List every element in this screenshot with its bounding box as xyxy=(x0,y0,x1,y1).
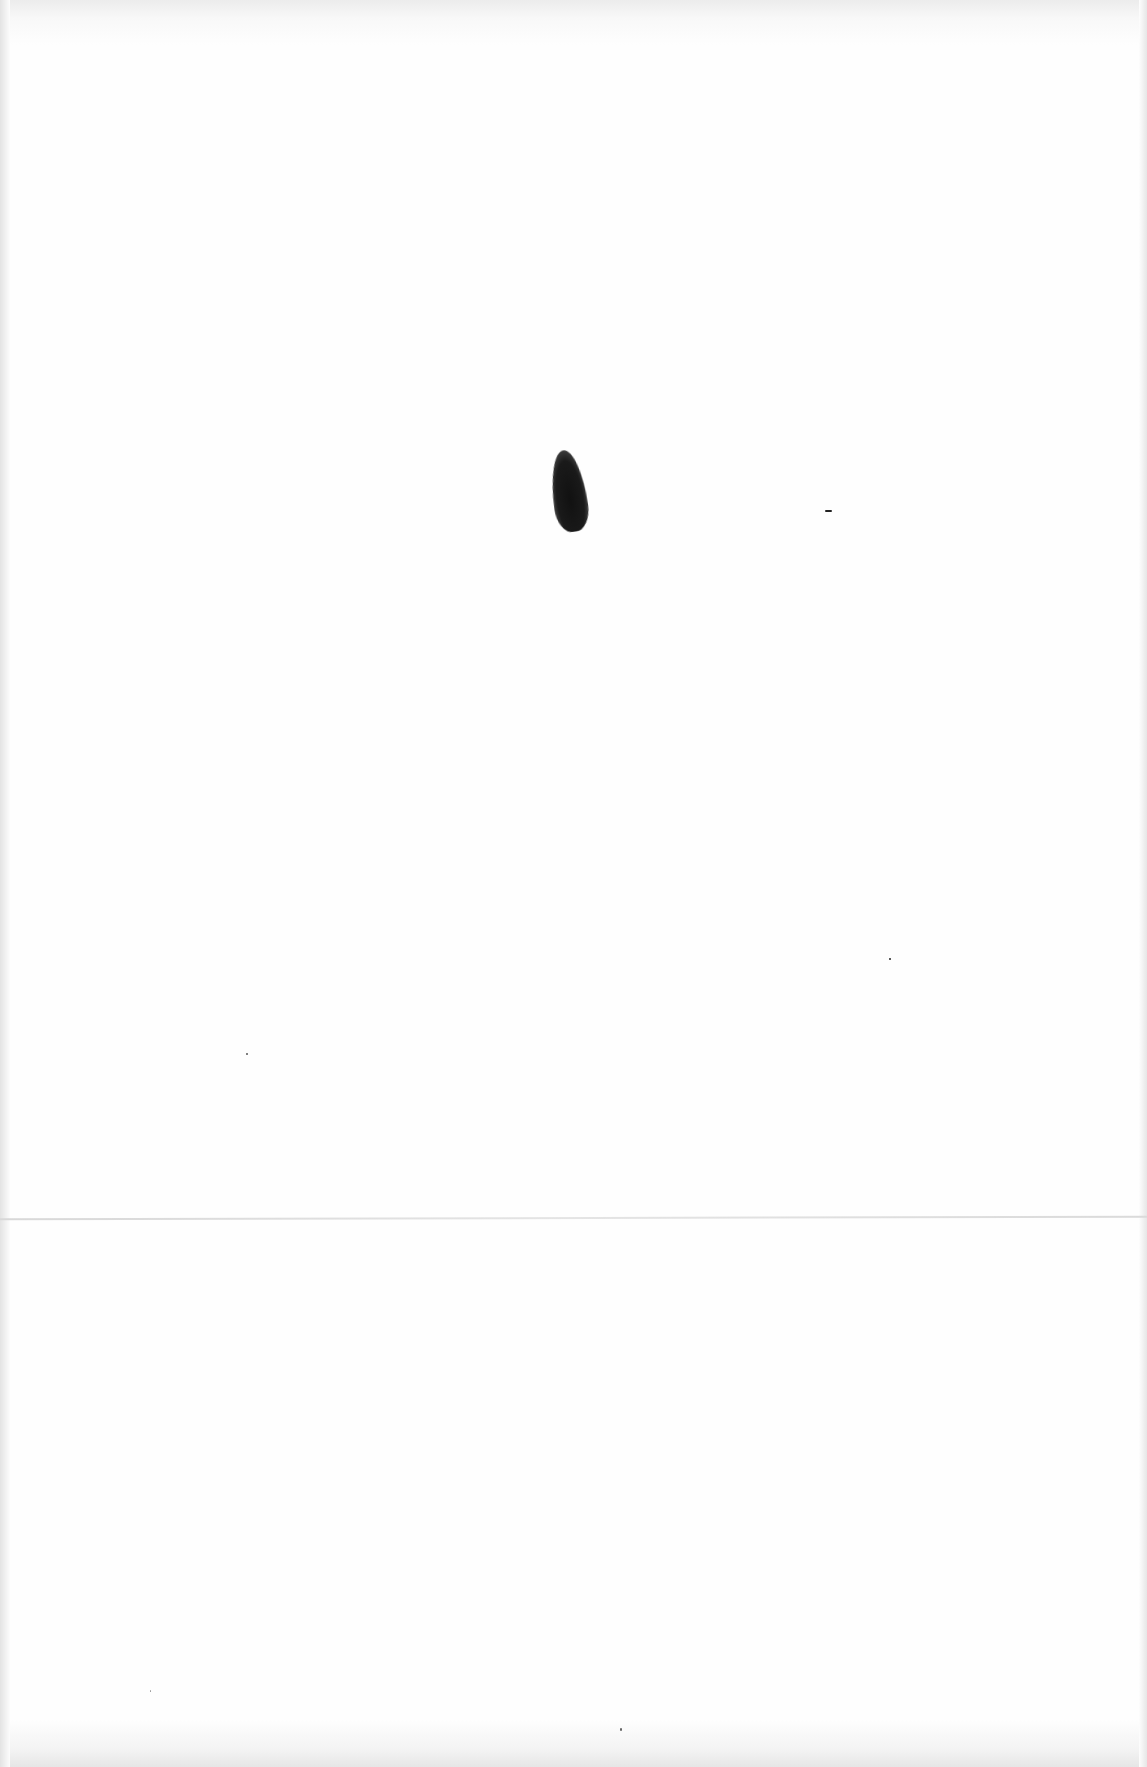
ink-blot xyxy=(546,448,591,534)
ink-speck xyxy=(889,958,891,960)
page-left-edge-shadow xyxy=(0,0,10,1767)
ink-speck xyxy=(150,1690,151,1692)
ink-speck-dash xyxy=(825,510,832,512)
page-right-edge-shadow xyxy=(1139,0,1147,1767)
ink-speck xyxy=(246,1053,248,1055)
ink-speck xyxy=(620,1728,622,1731)
fold-line xyxy=(0,1216,1147,1220)
scanned-page xyxy=(0,0,1147,1767)
